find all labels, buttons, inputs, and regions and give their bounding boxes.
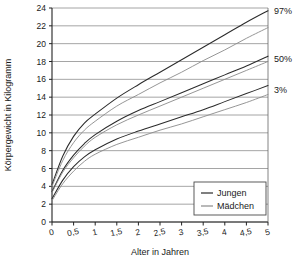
x-tick-label: 0,5 [66, 226, 80, 238]
x-tick-label: 3,5 [196, 226, 210, 238]
legend-label-jungen: Jungen [217, 188, 247, 198]
x-tick-label: 2 [134, 227, 141, 238]
curve-mädchen-97 [52, 28, 268, 187]
y-tick-label: 18 [37, 57, 47, 67]
curve-mädchen-50 [52, 62, 268, 193]
x-tick-label: 4,5 [239, 226, 253, 238]
y-axis-title: Körpergewicht in Kilogramm [3, 59, 13, 172]
y-tick-label: 8 [41, 146, 46, 156]
x-axis-title: Alter in Jahren [131, 247, 189, 257]
y-tick-labels: 024681012141618202224 [37, 3, 47, 227]
x-tick-label: 4 [221, 227, 228, 238]
legend-label-mädchen: Mädchen [217, 201, 254, 211]
y-tick-label: 2 [41, 199, 46, 209]
y-tick-label: 20 [37, 39, 47, 49]
x-tick-labels: 00,511,522,533,544,55 [48, 226, 271, 238]
y-tick-label: 12 [37, 110, 47, 120]
percentile-label: 50% [274, 54, 292, 64]
chart-legend: JungenMädchen [194, 182, 266, 215]
x-tick-label: 2,5 [153, 226, 167, 238]
x-tick-label: 1 [91, 227, 98, 238]
y-tick-label: 16 [37, 74, 47, 84]
percentile-annotations: 97%50%3% [274, 6, 292, 95]
y-tick-label: 14 [37, 92, 47, 102]
y-tick-label: 0 [41, 217, 46, 227]
x-tick-label: 0 [48, 227, 55, 238]
y-tick-label: 24 [37, 3, 47, 13]
weight-percentile-chart: 024681012141618202224 00,511,522,533,544… [0, 0, 293, 259]
percentile-label: 97% [274, 6, 292, 16]
x-tick-label: 1,5 [109, 226, 123, 238]
chart-canvas: 024681012141618202224 00,511,522,533,544… [0, 0, 293, 259]
y-tick-label: 10 [37, 128, 47, 138]
percentile-label: 3% [274, 85, 287, 95]
y-tick-label: 6 [41, 164, 46, 174]
y-tick-label: 22 [37, 21, 47, 31]
x-tick-label: 3 [178, 227, 185, 238]
percentile-curves [52, 11, 268, 201]
y-tick-label: 4 [41, 181, 46, 191]
x-tick-label: 5 [264, 227, 271, 238]
